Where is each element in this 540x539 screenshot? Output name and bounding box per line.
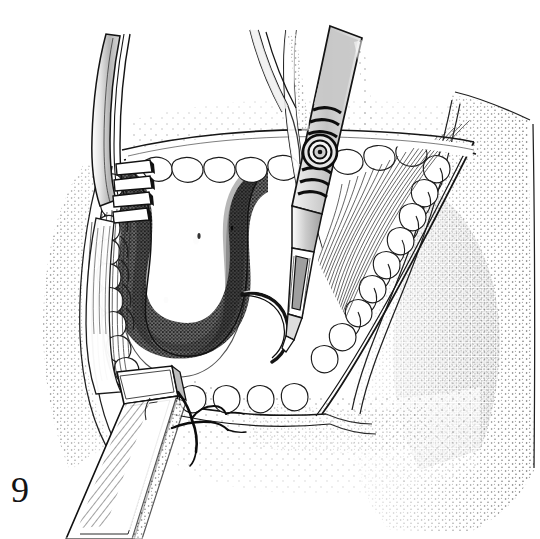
forceps-pivot-screw <box>303 135 337 169</box>
figure-number: 9 <box>11 472 29 508</box>
surgical-illustration-canvas <box>0 0 540 539</box>
figure-illustration: 9 surgical field with retracted wound, i… <box>0 0 540 539</box>
